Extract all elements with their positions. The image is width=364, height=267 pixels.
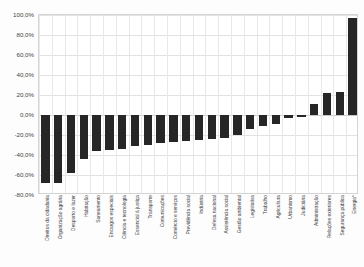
x-axis-tick: Essencial à justiça — [136, 195, 141, 235]
x-axis-tick-label: Legislativa — [251, 195, 256, 218]
gridline-horizontal — [39, 75, 357, 76]
bar — [348, 18, 356, 115]
x-axis-tick-label: Defesa nacional — [213, 195, 218, 230]
x-axis-tick: Energia* — [353, 195, 358, 214]
bar — [208, 115, 216, 139]
x-axis-tick-label: Saneamento — [97, 195, 102, 223]
x-axis-tick: Previdência social — [187, 195, 192, 234]
x-axis-tick: Saneamento — [97, 195, 102, 223]
gridline-vertical — [218, 15, 219, 193]
x-axis-labels: Direitos da cidadaniaOrganização agrária… — [38, 195, 358, 267]
gridline-horizontal — [39, 55, 357, 56]
x-axis-tick: Legislativa — [251, 195, 256, 218]
gridline-vertical — [282, 15, 283, 193]
y-axis-tick-label: -80,0% — [0, 191, 34, 198]
x-axis-tick: Organização agrária — [59, 195, 64, 239]
x-axis-tick: Transporte — [149, 195, 154, 218]
bar — [336, 92, 344, 115]
gridline-vertical — [346, 15, 347, 193]
x-axis-tick: Gestão ambiental — [238, 195, 243, 233]
bar — [41, 115, 49, 183]
bar — [246, 115, 254, 129]
gridline-vertical — [193, 15, 194, 193]
x-axis-tick-label: Comércio e serviços — [174, 195, 179, 239]
bar — [323, 93, 331, 115]
x-axis-tick-label: Judiciária — [302, 195, 307, 216]
plot-area — [38, 14, 358, 194]
gridline-vertical — [39, 15, 40, 193]
y-axis-tick-label: 0,0% — [0, 111, 34, 118]
x-axis-tick-label: Energia* — [353, 195, 358, 214]
x-axis-tick-label: Encargos especiais — [110, 195, 115, 237]
gridline-vertical — [205, 15, 206, 193]
gridline-vertical — [52, 15, 53, 193]
bar-chart: 100,0%80,0%60,0%40,0%20,0%0,0%-20,0%-40,… — [0, 0, 364, 267]
y-axis-tick-label: 60,0% — [0, 51, 34, 58]
bar — [297, 115, 305, 117]
gridline-vertical — [244, 15, 245, 193]
bar — [169, 115, 177, 142]
bar — [156, 115, 164, 143]
bar — [105, 115, 113, 150]
gridline-vertical — [65, 15, 66, 193]
y-axis-tick-label: -20,0% — [0, 131, 34, 138]
x-axis-tick: Ciência e tecnologia — [123, 195, 128, 239]
gridline-vertical — [141, 15, 142, 193]
x-axis-tick-label: Comunicações — [161, 195, 166, 227]
y-axis-tick-label: 40,0% — [0, 71, 34, 78]
x-axis-tick: Trabalho — [264, 195, 269, 214]
gridline-vertical — [180, 15, 181, 193]
gridline-horizontal — [39, 95, 357, 96]
bar — [67, 115, 75, 173]
bar — [80, 115, 88, 159]
y-axis-tick-label: -40,0% — [0, 151, 34, 158]
gridline-vertical — [90, 15, 91, 193]
y-axis-tick-label: 80,0% — [0, 31, 34, 38]
gridline-horizontal — [39, 175, 357, 176]
x-axis-tick-label: Organização agrária — [59, 195, 64, 239]
bar — [272, 115, 280, 124]
x-axis-tick: Indústria — [200, 195, 205, 214]
x-axis-tick-label: Assistência social — [225, 195, 230, 234]
x-axis-tick: Administração — [315, 195, 320, 226]
bar — [182, 115, 190, 141]
gridline-horizontal — [39, 15, 357, 16]
gridline-vertical — [257, 15, 258, 193]
gridline-vertical — [295, 15, 296, 193]
x-axis-tick-label: Urbanismo — [289, 195, 294, 219]
bar — [118, 115, 126, 149]
gridline-horizontal — [39, 35, 357, 36]
x-axis-tick-label: Indústria — [200, 195, 205, 214]
x-axis-tick: Assistência social — [225, 195, 230, 234]
gridline-vertical — [103, 15, 104, 193]
x-axis-tick: Encargos especiais — [110, 195, 115, 237]
x-axis-tick-label: Relações exteriores — [328, 195, 333, 238]
gridline-vertical — [116, 15, 117, 193]
x-axis-tick: Judiciária — [302, 195, 307, 216]
bar — [195, 115, 203, 140]
x-axis-tick-label: Trabalho — [264, 195, 269, 214]
gridline-vertical — [308, 15, 309, 193]
bar — [92, 115, 100, 151]
bar — [144, 115, 152, 145]
bar — [54, 115, 62, 183]
x-axis-tick-label: Ciência e tecnologia — [123, 195, 128, 239]
x-axis-tick: Direitos da cidadania — [46, 195, 51, 241]
x-axis-tick-label: Essencial à justiça — [136, 195, 141, 235]
gridline-vertical — [231, 15, 232, 193]
bar — [259, 115, 267, 126]
bar — [220, 115, 228, 138]
bar — [310, 104, 318, 115]
gridline-vertical — [77, 15, 78, 193]
x-axis-tick-label: Transporte — [149, 195, 154, 218]
x-axis-tick-label: Agricultura — [277, 195, 282, 218]
gridline-vertical — [167, 15, 168, 193]
x-axis-tick: Comunicações — [161, 195, 166, 227]
gridline-vertical — [154, 15, 155, 193]
gridline-vertical — [333, 15, 334, 193]
x-axis-tick: Comércio e serviços — [174, 195, 179, 239]
x-axis-tick-label: Administração — [315, 195, 320, 226]
x-axis-tick: Agricultura — [277, 195, 282, 218]
x-axis-tick: Habitação — [85, 195, 90, 217]
x-axis-tick-label: Desporto e lazer — [72, 195, 77, 231]
